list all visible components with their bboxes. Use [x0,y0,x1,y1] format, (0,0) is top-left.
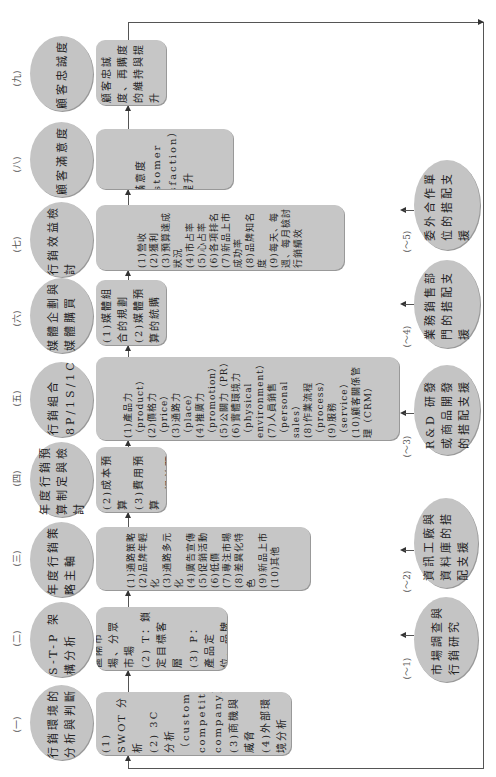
step-ellipse-6: 媒體企劃與媒體購買 [30,278,93,353]
step-title: 年度行銷預算制定與檢討 [36,445,87,515]
support-ellipse-1: 市場調查與行銷研究 [414,597,478,682]
step-ellipse-4: 年度行銷預算制定與檢討 [30,442,93,517]
arrow-up-icon [125,670,131,676]
step-item: (7)專注市場 [221,530,233,588]
step-item: (6)實體環境力（physical environment） [230,360,266,438]
step-label: (四) [10,470,23,486]
step-ellipse-2: S-T-P 架構分析 [30,602,93,677]
connector [404,304,414,305]
step-item: (4)市占率 [184,208,196,268]
step-item: (3)費用預算 [131,450,163,510]
support-ellipse-5: 委外合作單位的搭配支援 [414,160,480,250]
step-item: (9)每天、每週、每月檢討行銷績效 [268,208,304,268]
support-ellipse-4: 業務銷售部門的搭配支援 [414,260,480,348]
loop-arrow-icon [478,19,484,25]
step-title: 媒體企劃與媒體購買 [45,281,79,351]
support-text: R&D 研發或商品開發的搭配支援 [422,371,473,449]
step-item: (9)新品上市 [257,530,269,588]
support-ellipse-2: 資訊工廠與資料庫的搭配支援 [414,498,478,588]
step-label: (六) [10,310,23,326]
step-item: (2)獲利 [148,208,160,268]
loop-line-top-down [128,22,129,40]
step-item: (4)推廣力（promotion） [194,360,218,438]
arrow-up-icon [125,189,131,195]
step-title: 行銷效益檢討 [45,205,79,275]
step-item: (4)損益預算 [163,450,166,510]
step-label: (二) [10,630,23,646]
step-ellipse-9: 顧客忠誠度 [30,36,93,111]
step-label: (一) [10,716,23,732]
step-item: 顧客滿意度（customer satisfaction）的維持與提升 [133,129,197,189]
step-box-5: (1)產品力（product） (2)價格力（price） (3)通路力（pla… [96,357,399,440]
step-item: (10)其他 [269,530,281,588]
connector [404,550,414,551]
step-item: (7)新品上市成功率 [220,208,244,268]
step-box-3: (1)通路策略 (2)品牌年輕化 (3)通路多元化 (4)廣告宣傳 (5)促銷活… [96,527,310,590]
step-box-8: 顧客滿意度（customer satisfaction）的維持與提升 [96,129,233,189]
connector [404,413,414,414]
step-box-6: (1)媒體組合的規劃 (2)媒體預算的統購 [96,280,166,345]
step-item: (1)媒體組合的規劃 [99,283,131,343]
arrow-up-icon [125,440,131,446]
step-item: (2)成本預算 [99,450,131,510]
step-item: (8)作業流程（process） [302,360,326,438]
step-label: (五) [10,390,23,406]
step-item: (6)低價 [209,530,221,588]
step-item: (3)商機與威脅 [226,695,258,753]
step-ellipse-1: 行銷環境的分析與判斷 [30,685,93,760]
step-item: (4)廣告宣傳 [185,530,197,588]
step-item: (1)通路策略 [125,530,137,588]
support-label: (～5) [400,231,413,253]
step-label: (九) [10,70,23,86]
step-item: (2) 3C 分析（customer、competitor、company） [146,695,226,753]
step-box-2: (1) S：區隔市場、分眾市場 (2) T：鎖定目標客層 (3) P：產品定位、… [96,607,227,670]
support-text: 委外合作單位的搭配支援 [422,169,473,241]
step-item: (3)通路力（place） [170,360,194,438]
step-item: (2) T：鎖定目標客層 [138,610,186,668]
arrow-up-icon [125,512,131,518]
step-item: (3) P：產品定位、品牌定位 [186,610,228,668]
step-label: (三) [10,550,23,566]
arrow-up-icon [125,345,131,351]
step-item: (6)各項排名 [208,208,220,268]
step-title: S-T-P 架構分析 [45,605,79,675]
step-ellipse-7: 行銷效益檢討 [30,202,93,277]
step-ellipse-3: 年度行銷策略主軸 [30,522,93,597]
step-title: 行銷環境的分析與判斷 [45,688,79,758]
support-label: (～2) [400,571,413,593]
step-box-9: 顧客忠誠度、再購度的維持與提升 [96,40,166,105]
step-title: 年度行銷策略主軸 [45,525,79,595]
connector [404,210,414,211]
step-item: (2)媒體預算的統購 [131,283,163,343]
step-item: (10)顧客關係管理（CRM） [350,360,374,438]
step-item: 顧客忠誠度、再購度的維持與提升 [99,43,163,103]
step-item: (2)品牌年輕化 [137,530,161,588]
step-label: (七) [10,236,23,252]
support-label: (～3) [400,436,413,458]
step-box-4: (1)營收預算 (2)成本預算 (3)費用預算 (4)損益預算 [96,447,166,512]
step-box-7: (1)營收 (2)獲利 (3)預算達成狀況 (4)市占率 (5)心占率 (6)各… [96,205,344,270]
step-ellipse-8: 顧客滿意度 [30,122,93,197]
loop-line-bottom [128,768,484,769]
support-text: 資訊工廠與資料庫的搭配支援 [421,506,472,581]
step-item: (1) SWOT 分析 [98,695,146,753]
step-item: (1)營收 [136,208,148,268]
step-item: (5)心占率 [196,208,208,268]
loop-line-right [483,22,484,769]
step-item: (1)產品力（product） [122,360,146,438]
step-title: 行銷組合 8P/1S/1C [45,365,79,435]
step-label: (八) [10,156,23,172]
step-item: (5)公關力（PR） [218,360,230,438]
support-label: (～4) [400,326,413,348]
step-item: (7)人員銷售（personal sales） [266,360,302,438]
support-ellipse-3: R&D 研發或商品開發的搭配支援 [414,365,480,455]
arrow-up-icon [125,105,131,111]
step-ellipse-5: 行銷組合 8P/1S/1C [30,362,93,437]
support-label: (～1) [400,658,413,680]
support-text: 業務銷售部門的搭配支援 [422,268,473,340]
step-item: (3)預算達成狀況 [160,208,184,268]
support-text: 市場調查與行銷研究 [429,605,463,675]
arrow-up-icon [125,590,131,596]
step-item: (8)差異化特色 [233,530,257,588]
step-item: (5)促銷活動 [197,530,209,588]
